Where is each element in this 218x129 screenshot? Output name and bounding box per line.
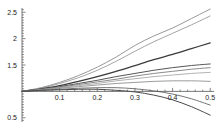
tick-label-group: 0.10.20.30.40.50.51.522.5 — [7, 9, 215, 122]
data-series-6 — [22, 72, 210, 91]
line-chart: 0.10.20.30.40.50.51.522.5 — [0, 0, 218, 129]
curve-group — [22, 9, 210, 115]
x-tick-label: 0.5 — [205, 94, 215, 101]
y-tick-label: 2 — [13, 35, 17, 42]
axes-group — [22, 8, 214, 122]
x-tick-label: 0.3 — [130, 94, 140, 101]
x-tick-label: 0.4 — [168, 94, 178, 101]
y-tick-label: 1.5 — [7, 62, 17, 69]
data-series-2 — [22, 16, 210, 91]
y-tick-label: 2.5 — [7, 9, 17, 16]
x-tick-label: 0.2 — [92, 94, 102, 101]
plot-canvas: 0.10.20.30.40.50.51.522.5 — [0, 0, 218, 129]
y-tick-label: 0.5 — [7, 114, 17, 121]
data-series-9 — [22, 89, 210, 115]
data-series-3 — [22, 43, 210, 92]
x-tick-label: 0.1 — [55, 94, 65, 101]
